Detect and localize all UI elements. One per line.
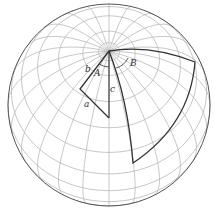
graticule-line [109, 7, 131, 52]
label-a: a [84, 99, 89, 109]
label-c: c [110, 84, 115, 94]
label-B: B [129, 58, 137, 68]
label-A: A [93, 68, 101, 78]
graticule-line [87, 7, 109, 52]
label-b: b [85, 64, 91, 74]
angle-A-arc [99, 64, 109, 67]
diagram-stage: b A c a B [0, 0, 215, 212]
graticule-line [109, 52, 180, 182]
graticule-line [11, 52, 109, 135]
globe-diagram: b A c a B [0, 0, 215, 212]
